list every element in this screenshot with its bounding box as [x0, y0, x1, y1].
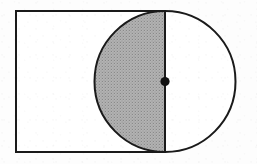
figure-canvas	[0, 0, 257, 164]
geometry-figure	[0, 0, 257, 164]
center-point-dot	[160, 77, 169, 86]
